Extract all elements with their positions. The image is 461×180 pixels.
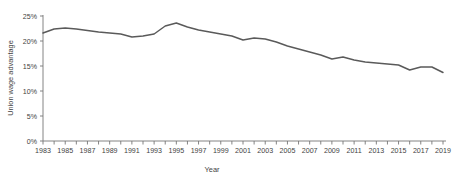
- x-tick-label: 1997: [191, 147, 207, 155]
- x-tick-label: 2001: [235, 147, 251, 155]
- y-tick-label: 0%: [27, 138, 38, 146]
- x-axis: 1983198519871989199119931995199719992001…: [35, 141, 451, 155]
- y-tick-label: 10%: [23, 88, 38, 96]
- y-axis: 0%5%10%15%20%25%: [23, 13, 43, 146]
- x-axis-title: Year: [205, 165, 220, 174]
- y-axis-tick-labels: 0%5%10%15%20%25%: [23, 13, 38, 146]
- x-tick-label: 1991: [124, 147, 140, 155]
- x-tick-label: 1983: [35, 147, 51, 155]
- x-tick-label: 1995: [168, 147, 184, 155]
- x-tick-label: 2013: [368, 147, 384, 155]
- x-tick-label: 1987: [80, 147, 96, 155]
- data-series-line: [43, 23, 443, 73]
- x-tick-label: 2019: [435, 147, 451, 155]
- x-tick-label: 1985: [57, 147, 73, 155]
- x-tick-label: 2011: [346, 147, 361, 155]
- x-tick-label: 2005: [280, 147, 296, 155]
- x-tick-label: 2015: [391, 147, 407, 155]
- y-tick-label: 20%: [23, 38, 38, 46]
- x-axis-tick-labels: 1983198519871989199119931995199719992001…: [35, 147, 451, 155]
- y-tick-label: 5%: [27, 113, 38, 121]
- x-axis-ticks: [43, 141, 443, 145]
- y-tick-label: 15%: [23, 63, 38, 71]
- x-tick-label: 1993: [146, 147, 162, 155]
- line-chart: 0%5%10%15%20%25% 19831985198719891991199…: [0, 0, 461, 180]
- x-tick-label: 2007: [302, 147, 318, 155]
- x-tick-label: 1999: [213, 147, 229, 155]
- chart-canvas: 0%5%10%15%20%25% 19831985198719891991199…: [0, 0, 461, 180]
- x-tick-label: 2003: [257, 147, 273, 155]
- x-tick-label: 2009: [324, 147, 340, 155]
- y-axis-title: Union wage advantage: [6, 40, 15, 116]
- x-tick-label: 2017: [413, 147, 429, 155]
- y-tick-label: 25%: [23, 13, 38, 21]
- x-tick-label: 1989: [102, 147, 118, 155]
